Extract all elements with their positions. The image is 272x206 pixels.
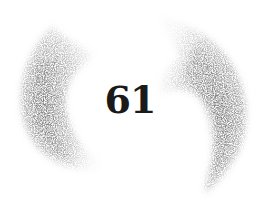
page-number: 61	[104, 78, 156, 122]
right-brush-crescent-icon	[159, 18, 246, 194]
page-number-ornament: 61	[0, 0, 272, 206]
left-brush-crescent-icon	[21, 26, 100, 170]
